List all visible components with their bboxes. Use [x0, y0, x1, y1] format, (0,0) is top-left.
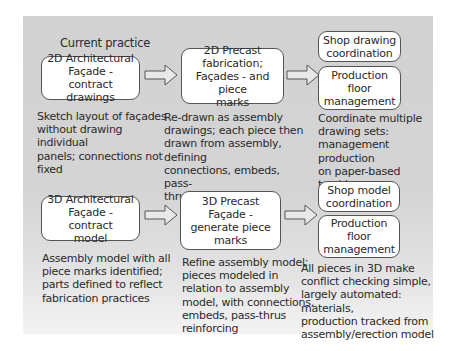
box-production-floor-management-3d: Production floor management	[318, 215, 400, 258]
box-shop-model-coordination: Shop model coordination	[318, 181, 400, 212]
description-current-coordination: Coordinate multiple drawing sets: manage…	[318, 112, 438, 191]
box-3d-architectural-facade: 3D Architectural Façade - contract model	[41, 196, 140, 241]
description-model-coordination: All pieces in 3D make conflict checking …	[301, 262, 441, 341]
box-2d-precast-fabrication: 2D Precast fabrication; Façades - and pi…	[181, 48, 284, 104]
box-production-floor-management: Production floor management	[318, 66, 401, 110]
section-heading-current-practice: Current practice	[60, 36, 150, 50]
box-3d-precast-facade: 3D Precast Façade - generate piece marks	[180, 191, 281, 250]
flow-arrow-icon	[286, 64, 320, 86]
description-2d-architectural: Sketch layout of façades without drawing…	[37, 110, 167, 176]
flow-arrow-icon	[144, 204, 178, 226]
box-shop-drawing-coordination: Shop drawing coordination	[318, 31, 401, 62]
box-2d-architectural-facade: 2D Architectural Façade - contract drawi…	[41, 56, 140, 100]
description-3d-architectural: Assembly model with all piece marks iden…	[42, 252, 172, 305]
description-2d-precast: Re-drawn as assembly drawings; each piec…	[164, 111, 304, 203]
flow-arrow-icon	[144, 64, 178, 86]
flow-arrow-icon	[284, 204, 318, 226]
